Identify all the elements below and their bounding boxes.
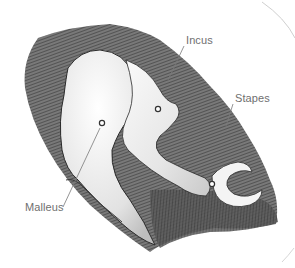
stapes-marker-dot — [209, 181, 214, 186]
malleus-marker-dot — [99, 120, 104, 125]
ossicles-sketch — [0, 0, 295, 268]
stapes-label: Stapes — [235, 92, 270, 104]
incus-label: Incus — [186, 34, 213, 46]
malleus-label: Malleus — [25, 201, 64, 213]
outer-arc-top — [262, 2, 295, 38]
outer-arc-bottom — [282, 248, 294, 262]
incus-marker-dot — [155, 106, 160, 111]
ossicles-illustration: Incus Stapes Malleus — [0, 0, 295, 268]
